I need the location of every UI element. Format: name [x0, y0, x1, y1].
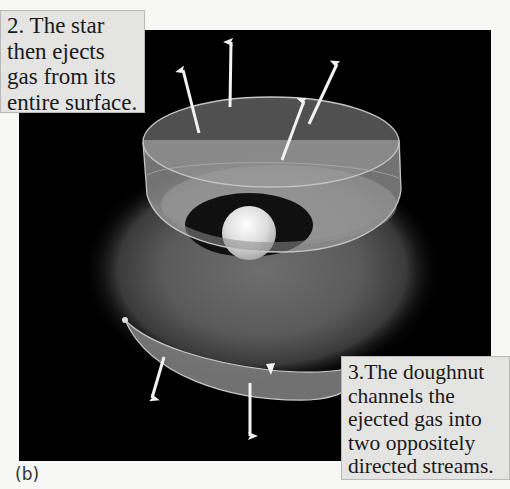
caption-step-3: 3.The doughnut channels the ejected gas …	[341, 356, 510, 480]
panel-label: (b)	[15, 464, 39, 484]
caption-step-2: 2. The star then ejects gas from its ent…	[0, 10, 145, 113]
arrow-up-icon	[230, 42, 231, 107]
